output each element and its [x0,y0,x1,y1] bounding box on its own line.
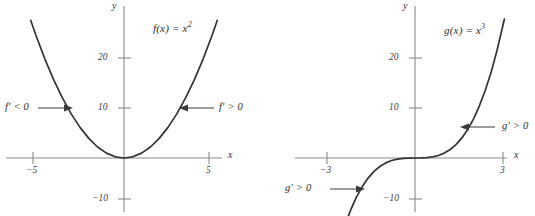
x-tick-label-3: 3 [500,166,505,176]
y-tick-label-neg10: −10 [383,194,399,204]
y-axis-label: y [403,1,407,11]
annotation-f-prime-positive: f′ > 0 [219,102,243,113]
x-tick-label-5: 5 [206,166,211,176]
y-tick-label-10: 10 [98,103,108,113]
function-label-g-text: g(x) = x [444,24,481,36]
y-tick-label-10: 10 [389,103,399,113]
function-label-g-exponent: 3 [481,22,485,31]
x-tick-label-neg3: −3 [320,166,331,176]
y-tick-label-20: 20 [98,53,108,63]
function-label-f-text: f(x) = x [153,22,188,34]
derivative-sign-figure: y x f(x) = x2 20 10 −10 −5 5 f′ < 0 f′ >… [0,0,535,216]
x-axis-label: x [514,150,518,160]
y-axis-label: y [112,1,116,11]
annotation-f-prime-negative: f′ < 0 [5,102,29,113]
function-label-g: g(x) = x3 [444,23,485,36]
x-tick-label-neg5: −5 [26,166,37,176]
function-label-f: f(x) = x2 [153,21,192,34]
y-tick-label-20: 20 [389,53,399,63]
panel-f-x-squared: y x f(x) = x2 20 10 −10 −5 5 f′ < 0 f′ >… [0,0,267,216]
annotation-arrow-head-upper [460,123,469,130]
y-tick-label-neg10: −10 [92,194,108,204]
annotation-arrow-head-right [179,104,188,111]
x-axis-label: x [228,150,232,160]
panel-g-x-cubed: y x g(x) = x3 20 10 −10 −3 3 g′ > 0 g′ >… [267,0,535,216]
annotation-g-prime-positive-upper: g′ > 0 [502,121,528,132]
annotation-g-prime-positive-lower: g′ > 0 [285,183,311,194]
function-label-f-exponent: 2 [188,20,192,29]
